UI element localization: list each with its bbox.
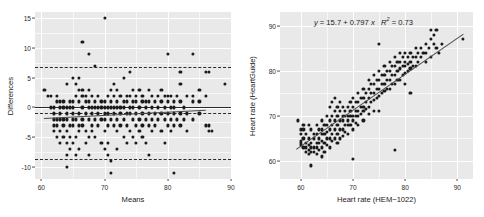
data-point — [432, 42, 435, 45]
data-point — [357, 123, 360, 126]
gridline-major-vertical — [405, 12, 406, 179]
data-point — [112, 124, 115, 127]
data-point — [157, 118, 160, 121]
y-axis-title-differences: Differences — [6, 76, 15, 114]
data-point — [128, 94, 131, 97]
data-point — [81, 118, 84, 121]
data-point — [125, 100, 128, 103]
data-point — [87, 52, 90, 55]
gridline-minor-vertical — [199, 12, 200, 179]
data-point — [302, 128, 305, 131]
x-tick-mark — [167, 179, 168, 181]
data-point — [71, 112, 74, 115]
data-point — [409, 60, 412, 63]
data-point — [388, 60, 391, 63]
data-point — [333, 128, 336, 131]
lower-limit-of-agreement — [35, 159, 231, 160]
data-point — [160, 100, 163, 103]
data-point — [414, 47, 417, 50]
gridline-minor-horizontal — [35, 63, 231, 64]
data-point — [191, 94, 194, 97]
data-point — [75, 94, 78, 97]
gridline-minor-vertical — [327, 12, 328, 179]
data-point — [71, 76, 74, 79]
data-point — [103, 100, 106, 103]
data-point — [75, 82, 78, 85]
data-point — [71, 100, 74, 103]
data-point — [147, 124, 150, 127]
data-point — [333, 137, 336, 140]
y-tick-label: 60 — [269, 157, 276, 164]
data-point — [65, 165, 68, 168]
data-point — [328, 105, 331, 108]
data-point — [333, 96, 336, 99]
data-point — [97, 94, 100, 97]
data-point — [346, 119, 349, 122]
data-point — [138, 106, 141, 109]
gridline-minor-horizontal — [280, 48, 473, 49]
x-tick-mark — [104, 179, 105, 181]
y-tick-mark — [277, 25, 279, 26]
data-point — [357, 101, 360, 104]
data-point — [160, 88, 163, 91]
data-point — [65, 118, 68, 121]
data-point — [388, 87, 391, 90]
data-point — [100, 142, 103, 145]
data-point — [68, 148, 71, 151]
data-point — [182, 106, 185, 109]
data-point — [109, 160, 112, 163]
data-point — [302, 123, 305, 126]
data-point — [78, 100, 81, 103]
data-point — [166, 100, 169, 103]
data-point — [336, 141, 339, 144]
data-point — [150, 94, 153, 97]
data-point — [109, 88, 112, 91]
data-point — [103, 118, 106, 121]
data-point — [310, 141, 313, 144]
data-point — [404, 51, 407, 54]
data-point — [93, 118, 96, 121]
data-point — [323, 150, 326, 153]
data-point — [367, 78, 370, 81]
data-point — [154, 100, 157, 103]
gridline-minor-vertical — [73, 12, 74, 179]
gridline-major-vertical — [301, 12, 302, 179]
data-point — [65, 82, 68, 85]
data-point — [65, 154, 68, 157]
data-point — [349, 101, 352, 104]
x-tick-mark — [405, 179, 406, 181]
data-point — [388, 78, 391, 81]
data-point — [182, 118, 185, 121]
data-point — [93, 136, 96, 139]
y-tick-label: 70 — [269, 112, 276, 119]
data-point — [185, 130, 188, 133]
data-point — [75, 118, 78, 121]
data-point — [62, 136, 65, 139]
data-point — [59, 142, 62, 145]
data-point — [106, 124, 109, 127]
data-point — [351, 96, 354, 99]
data-point — [173, 106, 176, 109]
y-tick-label: 80 — [269, 67, 276, 74]
data-point — [78, 130, 81, 133]
data-point — [131, 118, 134, 121]
data-point — [333, 110, 336, 113]
data-point — [71, 124, 74, 127]
data-point — [49, 94, 52, 97]
data-point — [344, 110, 347, 113]
data-point — [128, 130, 131, 133]
data-point — [336, 123, 339, 126]
gridline-major-horizontal — [280, 161, 473, 162]
data-point — [125, 124, 128, 127]
data-point — [163, 142, 166, 145]
data-point — [338, 101, 341, 104]
data-point — [388, 69, 391, 72]
data-point — [122, 136, 125, 139]
data-point — [81, 40, 84, 43]
data-point — [364, 92, 367, 95]
regression-equation: y = 15.7 + 0.797 x R2 = 0.73 — [314, 16, 413, 27]
data-point — [116, 100, 119, 103]
data-point — [78, 148, 81, 151]
data-point — [362, 96, 365, 99]
data-point — [409, 92, 412, 95]
